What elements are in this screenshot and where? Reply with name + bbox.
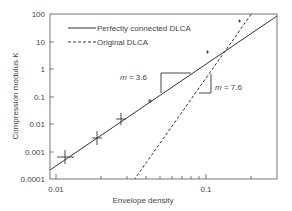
slope-annotation-3.6: m = 3.6 (120, 73, 147, 82)
y-tick-0.001: 0.001 (25, 148, 46, 157)
y-tick-0.01: 0.01 (29, 120, 45, 129)
series-original-dlca (134, 13, 252, 180)
x-tick-labels: 0.01 0.1 (48, 185, 212, 194)
data-point-4 (148, 99, 152, 103)
y-tick-10: 10 (36, 38, 45, 47)
chart: 100 10 1 0.1 0.01 0.001 0.0001 0.01 0.1 … (0, 0, 292, 211)
data-markers (57, 20, 241, 165)
slope-annotation-7.6: m = 7.6 (215, 83, 242, 92)
legend-solid-label: Perfectly connected DLCA (97, 24, 191, 33)
y-tick-100: 100 (32, 10, 46, 19)
data-point-1 (57, 150, 74, 164)
legend: Perfectly connected DLCA Original DLCA (68, 24, 191, 47)
data-point-2 (92, 131, 102, 145)
x-tick-0.01: 0.01 (48, 185, 64, 194)
y-axis-title: Compression modulus K (11, 52, 20, 140)
legend-dashed-label: Original DLCA (97, 38, 149, 47)
y-tick-0.1: 0.1 (34, 93, 46, 102)
y-tick-labels: 100 10 1 0.1 0.01 0.001 0.0001 (21, 10, 46, 184)
slope-triangle-7.6 (199, 74, 211, 93)
data-point-3 (116, 113, 126, 125)
y-tick-1: 1 (41, 65, 46, 74)
data-point-5 (206, 51, 209, 54)
data-point-6 (238, 20, 241, 23)
slope-triangle-3.6 (161, 73, 191, 93)
series-perfectly-connected-dlca (50, 16, 277, 170)
x-axis-ticks (56, 174, 251, 179)
x-tick-0.1: 0.1 (200, 185, 212, 194)
x-axis-title: Envelope density (113, 196, 174, 205)
y-axis-ticks (50, 42, 54, 152)
y-tick-0.0001: 0.0001 (21, 175, 46, 184)
